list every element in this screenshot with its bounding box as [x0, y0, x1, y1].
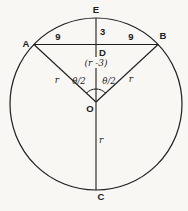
geometry-figure: E A B C D O 3 9 9 (r -3) r r r θ/2 θ/2	[0, 0, 188, 211]
circle-chord-diagram-svg: E A B C D O 3 9 9 (r -3) r r r θ/2 θ/2	[0, 0, 188, 211]
point-label-O: O	[86, 103, 93, 114]
point-label-A: A	[23, 38, 30, 49]
angle-label-right: θ/2	[102, 76, 115, 86]
radius-label-OB: r	[129, 74, 134, 84]
angle-label-left: θ/2	[72, 76, 85, 86]
point-label-D: D	[99, 47, 106, 58]
point-label-C: C	[98, 191, 105, 202]
radius-label-OC: r	[99, 135, 104, 145]
point-label-E: E	[93, 4, 99, 15]
measure-label-left-9: 9	[55, 31, 60, 42]
radius-label-OA: r	[55, 75, 60, 85]
measure-label-DO: (r -3)	[85, 58, 108, 68]
point-label-B: B	[160, 30, 167, 41]
measure-label-ED: 3	[100, 26, 105, 37]
measure-label-right-9: 9	[128, 31, 133, 42]
